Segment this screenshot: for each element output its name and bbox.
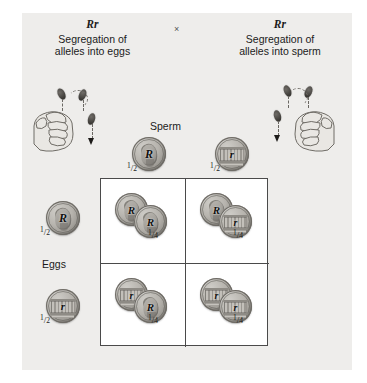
punnett-cell-1-front-allele: r (234, 216, 238, 227)
punnett-cell-2-back-allele: r (130, 289, 134, 300)
punnett-cell-rr[interactable]: R R 1/4 (101, 179, 185, 263)
toss-arc-dashes (288, 88, 308, 106)
dashed-down-arrow-icon (274, 135, 280, 142)
punnett-square-grid: R R 1/4 R r 1/4 (100, 178, 268, 346)
egg-gamete-1-allele: r (61, 300, 65, 312)
egg-gamete-1-coin: r (46, 289, 80, 323)
punnett-square-coin-figure: Rr Segregation of alleles into eggs × Rr… (0, 0, 367, 383)
toss-arc-dashes (68, 90, 88, 108)
punnett-cell-1-probability: 1/4 (186, 215, 270, 254)
punnett-cell-3-front-allele: r (234, 301, 238, 312)
sperm-axis-label: Sperm (150, 120, 181, 132)
punnett-cell-0-back-allele: R (128, 204, 135, 216)
punnett-cell-2-front-allele: R (147, 301, 154, 313)
left-parent-caption-line2: alleles into eggs (0, 45, 185, 57)
dashed-down-arrow-icon (88, 138, 94, 145)
toss-dash-down (278, 121, 279, 136)
sperm-gamete-0-coin: R (132, 137, 166, 171)
punnett-cell-rr-hetero[interactable]: R r 1/4 (186, 179, 270, 263)
toss-dash-down (92, 124, 93, 139)
cross-symbol: × (174, 23, 179, 35)
egg-gamete-0-coin: R (46, 201, 80, 235)
punnett-cell-0-front-allele: R (147, 216, 154, 228)
right-parent-caption-line2: alleles into sperm (200, 45, 360, 57)
punnett-cell-3-probability: 1/4 (186, 300, 270, 339)
punnett-cell-1-back-allele: R (213, 204, 220, 216)
right-parent-caption-line1: Segregation of (200, 33, 360, 45)
egg-gamete-0-allele: R (59, 211, 67, 226)
toss-dash-right (308, 97, 309, 108)
toss-dash-right (83, 100, 84, 111)
toss-dash-left (288, 96, 289, 108)
punnett-cell-2-probability: 1/4 (101, 300, 185, 339)
punnett-cell-rr-recessive[interactable]: r r 1/4 (186, 264, 270, 348)
punnett-cell-3-back-allele: r (215, 289, 219, 300)
sperm-gamete-0-allele: R (145, 147, 153, 162)
sperm-gamete-1-coin: r (215, 137, 249, 171)
toss-dash-left (62, 99, 63, 111)
punnett-cell-0-probability: 1/4 (101, 215, 185, 254)
sperm-gamete-1-allele: r (230, 148, 234, 160)
punnett-cell-rr-hetero-2[interactable]: r R 1/4 (101, 264, 185, 348)
eggs-axis-label: Eggs (42, 258, 66, 270)
right-parent-genotype: Rr (200, 18, 360, 30)
left-parent-genotype: Rr (0, 18, 185, 30)
left-parent-caption-line1: Segregation of (0, 33, 185, 45)
